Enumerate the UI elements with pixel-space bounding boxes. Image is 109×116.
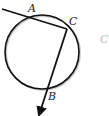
geometry-diagram: A C B C bbox=[0, 0, 109, 116]
point-label-b: B bbox=[47, 90, 56, 103]
point-label-a: A bbox=[27, 2, 36, 15]
circle bbox=[5, 15, 79, 89]
point-label-c: C bbox=[69, 15, 78, 28]
extra-label-c: C bbox=[100, 33, 109, 46]
